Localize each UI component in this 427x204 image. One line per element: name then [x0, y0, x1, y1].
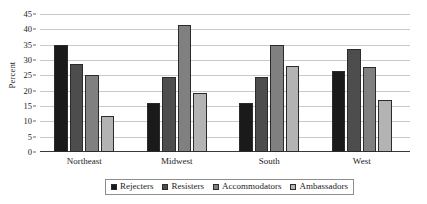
legend-label: Ambassadors [299, 181, 348, 192]
bars-layer [40, 14, 410, 152]
y-tick-mark [33, 60, 36, 61]
y-tick-mark [33, 121, 36, 122]
bar [332, 71, 346, 152]
x-axis-label-midwest: Midwest [161, 156, 193, 166]
y-tick-mark [33, 14, 36, 15]
legend-item[interactable]: Resisters [162, 181, 204, 192]
bar [363, 67, 377, 152]
bar [378, 100, 392, 152]
legend-swatch-icon [213, 184, 219, 190]
bar [270, 45, 284, 152]
y-tick-label: 30 [24, 56, 33, 65]
bar [101, 116, 115, 152]
bar [286, 66, 300, 152]
legend-label: Accommodators [222, 181, 281, 192]
legend-swatch-icon [111, 184, 117, 190]
legend-item[interactable]: Ambassadors [290, 181, 348, 192]
y-tick-mark [33, 106, 36, 107]
y-tick-label: 10 [24, 117, 33, 126]
y-tick-mark [33, 152, 36, 153]
y-tick-label: 35 [24, 40, 33, 49]
bar [239, 103, 253, 152]
legend-item[interactable]: Rejecters [111, 181, 153, 192]
bar [255, 77, 269, 152]
y-tick-mark [33, 75, 36, 76]
chart-legend: RejectersResistersAccommodatorsAmbassado… [105, 179, 354, 195]
y-tick-label: 0 [28, 148, 32, 157]
grouped-bar-chart: Percent 051015202530354045 NortheastMidw… [0, 0, 427, 204]
y-tick-mark [33, 90, 36, 91]
y-tick-mark [33, 44, 36, 45]
y-tick-mark [33, 136, 36, 137]
legend-label: Resisters [171, 181, 204, 192]
bar [54, 45, 68, 152]
x-axis-label-south: South [259, 156, 280, 166]
bar [147, 103, 161, 152]
plot-area [40, 14, 410, 152]
bar [178, 25, 192, 152]
bar [193, 93, 207, 152]
y-tick-label: 45 [24, 10, 33, 19]
legend-label: Rejecters [120, 181, 153, 192]
y-axis-ticks: 051015202530354045 [0, 14, 36, 152]
y-tick-label: 20 [24, 86, 33, 95]
y-tick-label: 40 [24, 25, 33, 34]
legend-swatch-icon [162, 184, 168, 190]
y-tick-mark [33, 29, 36, 30]
y-tick-label: 15 [24, 102, 33, 111]
y-tick-label: 25 [24, 71, 33, 80]
x-axis-category-labels: NortheastMidwestSouthWest [40, 156, 410, 172]
bar [70, 64, 84, 152]
x-axis-label-northeast: Northeast [67, 156, 102, 166]
bar [162, 77, 176, 152]
x-axis-label-west: West [353, 156, 371, 166]
bar [85, 75, 99, 152]
bar [347, 49, 361, 152]
y-tick-label: 5 [28, 132, 32, 141]
legend-item[interactable]: Accommodators [213, 181, 281, 192]
legend-swatch-icon [290, 184, 296, 190]
